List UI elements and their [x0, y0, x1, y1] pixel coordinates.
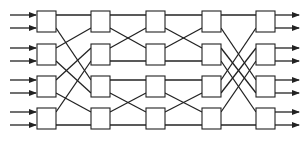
switch-node-box	[91, 11, 110, 32]
switch-node-box	[37, 108, 56, 129]
switch-node-box	[37, 44, 56, 65]
switch-node-box	[202, 44, 221, 65]
network-svg	[0, 0, 307, 144]
switch-node-box	[202, 108, 221, 129]
switch-node-box	[256, 44, 275, 65]
link-line	[56, 93, 91, 112]
switch-node-box	[202, 11, 221, 32]
link-line	[56, 61, 91, 93]
switch-node-box	[91, 44, 110, 65]
switch-node-box	[37, 11, 56, 32]
switch-node-box	[37, 76, 56, 97]
switch-node-box	[146, 76, 165, 97]
switch-node-box	[146, 11, 165, 32]
switch-node-box	[146, 44, 165, 65]
switch-node-box	[256, 76, 275, 97]
switch-node-box	[91, 108, 110, 129]
switching-network-diagram	[0, 0, 307, 144]
link-line	[56, 48, 91, 80]
switch-node-box	[256, 108, 275, 129]
link-line	[56, 61, 91, 112]
switch-node-box	[256, 11, 275, 32]
switch-node-box	[146, 108, 165, 129]
link-line	[56, 28, 91, 80]
link-line	[56, 28, 91, 48]
switch-node-box	[202, 76, 221, 97]
switch-node-box	[91, 76, 110, 97]
